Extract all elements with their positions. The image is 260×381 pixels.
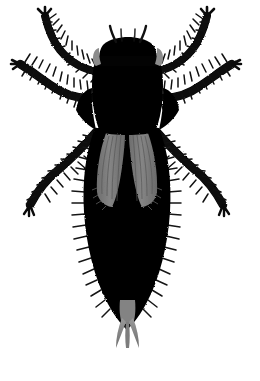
cercus-middle (125, 322, 130, 348)
insect-illustration (0, 0, 260, 381)
thorax (92, 58, 163, 135)
head-base (99, 56, 157, 66)
specimen-image (0, 0, 260, 381)
